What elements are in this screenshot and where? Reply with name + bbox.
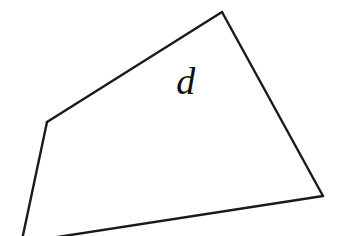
geometric-figure-svg — [0, 0, 347, 236]
figure-canvas-container: d — [0, 0, 347, 236]
region-label-d: d — [176, 62, 195, 100]
